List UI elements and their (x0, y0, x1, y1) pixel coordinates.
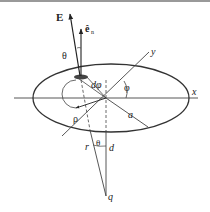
label-r: r (85, 141, 89, 152)
top-border (0, 0, 210, 2)
label-theta-top: θ (62, 50, 67, 61)
rho-arc (62, 80, 76, 108)
charged-disk-field-diagram: E ê n θ dφ φ ρ a x y r θ d q (0, 0, 210, 212)
rho-arrow (76, 98, 106, 108)
label-E: E (56, 11, 63, 23)
label-theta-bottom: θ (96, 138, 100, 148)
label-q: q (108, 191, 113, 202)
label-y: y (150, 46, 156, 57)
a-radius-line (106, 98, 148, 127)
label-x: x (191, 86, 197, 97)
e-field-arrow (70, 14, 80, 76)
label-e-n-sub: n (91, 29, 94, 35)
label-phi: φ (124, 82, 130, 93)
label-dphi: dφ (91, 79, 102, 90)
theta-top-arc (77, 48, 81, 49)
label-e-n: ê (85, 23, 90, 34)
label-d: d (109, 142, 115, 153)
label-a: a (128, 109, 133, 120)
label-rho: ρ (73, 113, 78, 124)
